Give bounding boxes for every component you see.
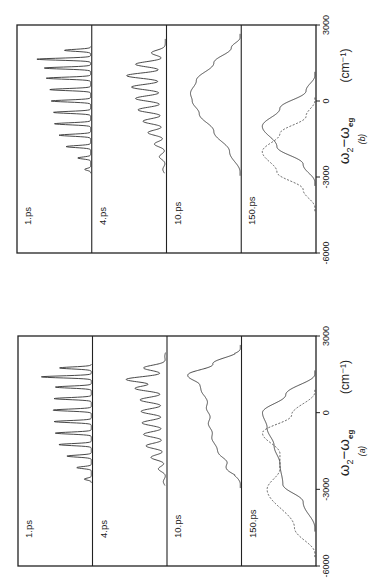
solid-spectrum-curve: [41, 364, 91, 483]
subplot-4ps: 4.ps: [97, 39, 166, 225]
panel-a: 1.ps4.ps10.ps150.ps-6000-300003000ω2−ωeg…: [18, 326, 367, 578]
solid-spectrum-curve: [262, 72, 314, 186]
axis-unit: (cm⁻¹): [338, 49, 352, 83]
subplot-4ps: 4.ps: [98, 353, 166, 538]
subplot-150ps: 150.ps: [247, 371, 315, 558]
delay-label: 1.ps: [23, 520, 34, 538]
panel-b: 1.ps4.ps10.ps150.ps-6000-300003000ω2−ωeg…: [17, 15, 367, 265]
solid-spectrum-curve: [127, 39, 166, 173]
solid-spectrum-curve: [263, 371, 315, 532]
delay-label: 4.ps: [98, 520, 109, 538]
axis-label: ω2−ωeg: [335, 118, 355, 165]
delay-label: 150.ps: [246, 196, 257, 225]
delay-label: 1.ps: [22, 207, 33, 225]
solid-spectrum-curve: [188, 345, 241, 488]
tick-label: 0: [321, 98, 331, 103]
axis-label: ω2−ωeg: [335, 430, 355, 477]
tick-label: -3000: [321, 478, 331, 501]
subplot-1ps: 1.ps: [22, 47, 91, 225]
solid-spectrum-curve: [126, 353, 165, 486]
figure: 1.ps4.ps10.ps150.ps-6000-300003000ω2−ωeg…: [0, 0, 382, 583]
delay-label: 150.ps: [247, 509, 258, 538]
delay-label: 10.ps: [172, 202, 183, 225]
delay-label: 4.ps: [97, 207, 108, 225]
solid-spectrum-curve: [37, 47, 91, 174]
tick-label: -6000: [321, 241, 331, 264]
subplot-10ps: 10.ps: [172, 345, 240, 538]
tick-label: 3000: [321, 15, 331, 35]
dashed-spectrum-curve: [263, 388, 315, 557]
tick-label: 0: [321, 410, 331, 415]
dashed-spectrum-curve: [262, 97, 314, 211]
tick-label: -3000: [321, 165, 331, 188]
panel-label: (a): [357, 446, 367, 457]
tick-label: -6000: [321, 554, 331, 577]
solid-spectrum-curve: [190, 34, 240, 176]
subplot-1ps: 1.ps: [23, 364, 91, 538]
subplot-10ps: 10.ps: [172, 34, 241, 225]
delay-label: 10.ps: [172, 515, 183, 538]
tick-label: 3000: [321, 326, 331, 346]
subplot-150ps: 150.ps: [246, 72, 315, 225]
axis-unit: (cm⁻¹): [338, 360, 352, 394]
panel-label: (b): [357, 134, 367, 145]
